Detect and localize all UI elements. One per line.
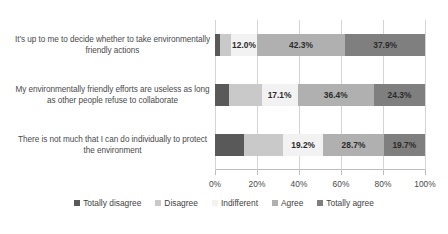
- bar-segment[interactable]: [220, 34, 231, 56]
- legend-swatch-icon: [317, 200, 323, 206]
- legend-label: Agree: [281, 198, 303, 208]
- x-axis-tick-label: 60%: [333, 179, 350, 189]
- bar-row[interactable]: 12.0%42.3%37.9%: [215, 34, 425, 56]
- stacked-bar-chart: It’s up to me to decide whether to take …: [0, 0, 448, 234]
- x-axis-tick: [257, 170, 258, 175]
- x-axis-tick-label: 20%: [249, 179, 266, 189]
- x-axis-tick: [425, 170, 426, 175]
- x-axis-tick-label: 40%: [291, 179, 308, 189]
- legend-label: Totally disagree: [83, 198, 141, 208]
- x-axis-line: [215, 169, 425, 170]
- bar-segment[interactable]: 28.7%: [323, 134, 383, 156]
- x-axis-tick-label: 80%: [375, 179, 392, 189]
- bar-segment[interactable]: [244, 134, 283, 156]
- legend-item[interactable]: Totally agree: [317, 198, 373, 208]
- bar-row[interactable]: 19.2%28.7%19.7%: [215, 134, 425, 156]
- legend-label: Totally agree: [326, 198, 373, 208]
- x-axis-tick: [215, 170, 216, 175]
- legend-swatch-icon: [212, 200, 218, 206]
- category-label: It’s up to me to decide whether to take …: [14, 34, 211, 56]
- bar-segment[interactable]: 36.4%: [298, 84, 374, 106]
- x-axis-tick: [383, 170, 384, 175]
- bar-segment[interactable]: 19.7%: [384, 134, 425, 156]
- category-label: There is not much that I can do individu…: [14, 134, 211, 156]
- legend-swatch-icon: [74, 200, 80, 206]
- legend-swatch-icon: [155, 200, 161, 206]
- legend-item[interactable]: Agree: [272, 198, 303, 208]
- x-axis-tick: [341, 170, 342, 175]
- bar-segment[interactable]: 37.9%: [345, 34, 425, 56]
- x-axis-tick: [299, 170, 300, 175]
- bar-segment[interactable]: 17.1%: [262, 84, 298, 106]
- chart-legend: Totally disagreeDisagreeIndifferentAgree…: [0, 198, 448, 208]
- x-axis-tick-label: 100%: [414, 179, 435, 189]
- bar-row[interactable]: 17.1%36.4%24.3%: [215, 84, 425, 106]
- bar-segment[interactable]: 42.3%: [257, 34, 346, 56]
- bar-segment[interactable]: 24.3%: [374, 84, 425, 106]
- legend-item[interactable]: Totally disagree: [74, 198, 141, 208]
- plot-wrapper: It’s up to me to decide whether to take …: [0, 0, 448, 190]
- category-label: My environmentally friendly efforts are …: [14, 84, 211, 106]
- bar-segment[interactable]: [215, 84, 229, 106]
- legend-label: Disagree: [164, 198, 198, 208]
- plot-area: 0%20%40%60%80%100%12.0%42.3%37.9%17.1%36…: [215, 20, 425, 170]
- bar-segment[interactable]: [229, 84, 262, 106]
- legend-item[interactable]: Indifferent: [212, 198, 258, 208]
- bar-segment[interactable]: 19.2%: [283, 134, 323, 156]
- bar-segment[interactable]: 12.0%: [231, 34, 256, 56]
- x-axis-tick-label: 0%: [209, 179, 221, 189]
- gridline: [425, 20, 426, 170]
- legend-swatch-icon: [272, 200, 278, 206]
- bar-segment[interactable]: [215, 134, 244, 156]
- legend-label: Indifferent: [221, 198, 258, 208]
- legend-item[interactable]: Disagree: [155, 198, 198, 208]
